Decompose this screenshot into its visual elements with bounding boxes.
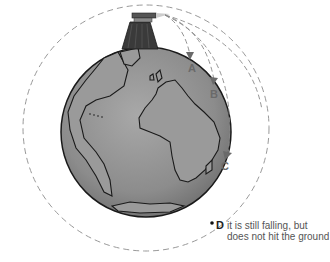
label-b: B	[210, 88, 218, 100]
caption: it is still falling, but does not hit th…	[227, 220, 330, 242]
cannon	[132, 13, 156, 18]
point-d	[210, 221, 214, 225]
label-c: C	[221, 160, 229, 172]
mountain	[122, 22, 158, 49]
caption-line-2: does not hit the ground	[227, 231, 330, 242]
caption-line-1: it is still falling, but	[227, 220, 330, 231]
label-a: A	[188, 62, 196, 74]
label-d: D	[216, 219, 224, 231]
trajectory-a	[165, 15, 190, 55]
